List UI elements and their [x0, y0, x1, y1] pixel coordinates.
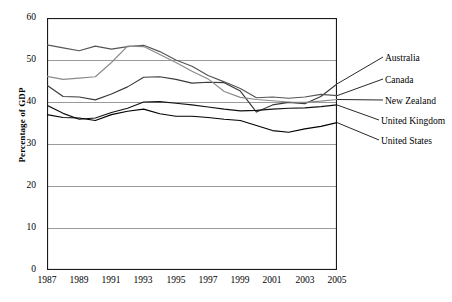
series-line-new-zealand [47, 46, 337, 102]
series-line-australia [47, 77, 337, 112]
y-axis-title: Percentage of GDP [17, 55, 27, 195]
plot-area [47, 18, 337, 270]
leader-line-new-zealand [337, 99, 383, 100]
series-label-australia: Australia [385, 53, 420, 63]
leader-line-united-states [337, 123, 379, 140]
chart-canvas [47, 18, 337, 270]
chart-figure: Percentage of GDP 60 50 40 30 20 10 0 19… [0, 0, 452, 302]
series-label-new-zealand: New Zealand [385, 96, 436, 106]
leader-line-australia [337, 57, 383, 84]
leader-line-united-kingdom [337, 105, 379, 120]
series-line-united-states [47, 109, 337, 132]
series-label-united-kingdom: United Kingdom [381, 116, 445, 126]
series-label-united-states: United States [381, 136, 432, 146]
y-tick-label-40: 40 [8, 97, 36, 107]
series-label-canada: Canada [385, 75, 414, 85]
leader-line-canada [337, 79, 383, 96]
y-tick-label-10: 10 [8, 223, 36, 233]
y-tick-label-0: 0 [8, 265, 36, 275]
y-tick-label-30: 30 [8, 139, 36, 149]
y-tick-label-50: 50 [8, 55, 36, 65]
x-tick-label-2005: 2005 [317, 276, 357, 286]
y-tick-label-20: 20 [8, 181, 36, 191]
y-tick-label-60: 60 [8, 13, 36, 23]
